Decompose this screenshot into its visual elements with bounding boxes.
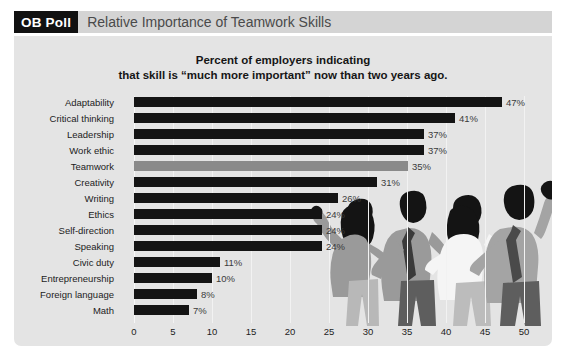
x-tick-label: 20 <box>278 326 302 337</box>
x-tick-label: 10 <box>200 326 224 337</box>
bar-civic-duty <box>134 257 220 267</box>
bar-value-label: 11% <box>224 258 242 268</box>
bar-value-label: 41% <box>459 114 478 124</box>
category-label: Teamwork <box>71 162 114 172</box>
category-label: Entrepreneurship <box>41 274 114 284</box>
chart-panel: Percent of employers indicating that ski… <box>14 36 552 346</box>
category-label: Adaptability <box>65 98 114 108</box>
bar-value-label: 37% <box>428 146 447 156</box>
category-label: Civic duty <box>73 258 114 268</box>
category-label: Creativity <box>74 178 114 188</box>
category-label: Critical thinking <box>50 114 114 124</box>
bar-teamwork <box>134 161 408 171</box>
x-tick-label: 35 <box>395 326 419 337</box>
category-label: Work ethic <box>69 146 114 156</box>
bar-entrepreneurship <box>134 273 212 283</box>
plot-area: Adaptability Critical thinking Leadershi… <box>14 36 552 346</box>
bar-writing <box>134 193 338 203</box>
bar-value-label: 10% <box>216 274 235 284</box>
bar-value-label: 37% <box>428 130 447 140</box>
bar-value-label: 7% <box>193 306 207 316</box>
bar-adaptability <box>134 97 502 107</box>
category-label: Ethics <box>88 210 114 220</box>
bar-value-label: 24% <box>326 242 345 252</box>
ob-poll-tag: OB Poll <box>14 11 78 33</box>
gridline-50 <box>524 96 525 323</box>
category-axis: Adaptability Critical thinking Leadershi… <box>14 36 114 346</box>
x-tick-label: 45 <box>473 326 497 337</box>
bar-foreign-language <box>134 289 197 299</box>
x-tick-label: 5 <box>161 326 185 337</box>
x-tick-label: 25 <box>317 326 341 337</box>
bar-value-label: 24% <box>326 210 345 220</box>
x-tick-label: 50 <box>512 326 536 337</box>
category-label: Speaking <box>74 242 114 252</box>
category-label: Math <box>93 306 114 316</box>
bar-leadership <box>134 129 424 139</box>
x-tick-label: 0 <box>122 326 146 337</box>
bar-ethics <box>134 209 322 219</box>
category-label: Writing <box>85 194 114 204</box>
bar-self-direction <box>134 225 322 235</box>
bar-critical-thinking <box>134 113 455 123</box>
bar-value-label: 47% <box>506 98 525 108</box>
x-tick-label: 15 <box>239 326 263 337</box>
category-label: Self-direction <box>59 226 114 236</box>
gridline-45 <box>485 96 486 323</box>
category-label: Foreign language <box>40 290 114 300</box>
bar-math <box>134 305 189 315</box>
bar-value-label: 35% <box>412 162 431 172</box>
x-tick-label: 30 <box>356 326 380 337</box>
bar-value-label: 31% <box>381 178 400 188</box>
ob-poll-infographic: OB Poll Relative Importance of Teamwork … <box>0 0 566 363</box>
header-title: Relative Importance of Teamwork Skills <box>78 11 331 33</box>
bar-speaking <box>134 241 322 251</box>
x-tick-label: 40 <box>434 326 458 337</box>
bar-value-label: 26% <box>342 194 361 204</box>
bar-work-ethic <box>134 145 424 155</box>
header-bar: OB Poll Relative Importance of Teamwork … <box>14 11 552 33</box>
bar-creativity <box>134 177 377 187</box>
bar-value-label: 24% <box>326 226 345 236</box>
category-label: Leadership <box>67 130 114 140</box>
bar-value-label: 8% <box>201 290 215 300</box>
